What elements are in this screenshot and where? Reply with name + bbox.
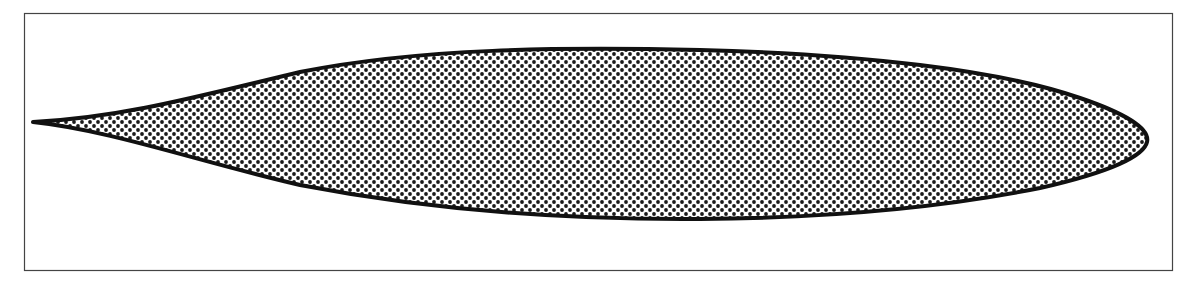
- airfoil-diagram: [0, 0, 1197, 285]
- airfoil-shape: [33, 49, 1147, 219]
